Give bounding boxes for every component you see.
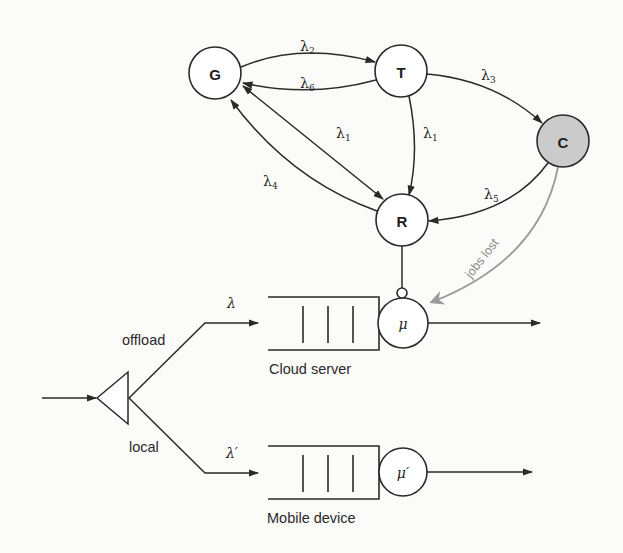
rate-label-lambda3: λ3	[481, 67, 496, 85]
mobile-arrival-rate: λ′	[225, 445, 239, 461]
edge-jobs-lost	[432, 167, 558, 302]
rate-label-lambda4: λ4	[263, 173, 278, 191]
mobile-device-queue: μ′	[268, 446, 427, 499]
connector-knob	[397, 288, 407, 298]
splitter-triangle	[97, 372, 128, 424]
mobile-service-rate: μ′	[397, 465, 410, 481]
svg-text:C: C	[558, 134, 569, 151]
offloading-queue-diagram: λ2 λ6 λ3 λ1 λ1 λ4 λ5 jobs lost G T C R o…	[0, 0, 623, 553]
cloud-arrival-rate: λ	[226, 295, 236, 311]
rate-label-lambda1-gr: λ1	[336, 125, 351, 143]
node-c: C	[537, 115, 589, 167]
cloud-service-rate: μ	[398, 316, 407, 332]
edge-t-to-r	[409, 96, 415, 195]
node-t: T	[375, 45, 427, 97]
rate-label-lambda1-tr: λ1	[423, 125, 438, 143]
svg-text:R: R	[397, 213, 408, 230]
node-g: G	[189, 47, 241, 99]
rate-label-lambda2: λ2	[300, 38, 315, 56]
rate-label-lambda6: λ6	[300, 75, 315, 93]
rate-label-lambda5: λ5	[484, 186, 499, 204]
jobs-lost-label: jobs lost	[462, 236, 502, 282]
svg-text:T: T	[396, 64, 405, 81]
cloud-server-label: Cloud server	[269, 361, 351, 377]
cloud-server-queue: μ	[268, 297, 428, 350]
local-branch	[129, 398, 258, 473]
svg-text:G: G	[209, 66, 221, 83]
local-label: local	[129, 439, 159, 455]
offload-label: offload	[122, 332, 165, 348]
node-r: R	[376, 194, 428, 246]
edge-r-to-g	[231, 100, 377, 211]
mobile-device-label: Mobile device	[267, 510, 356, 526]
